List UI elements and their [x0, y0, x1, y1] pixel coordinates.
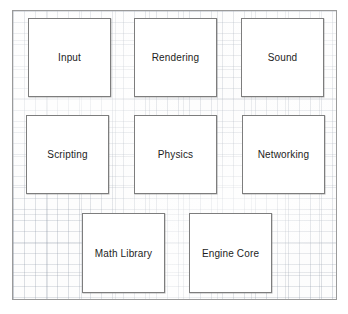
node-scripting[interactable]: Scripting — [26, 115, 109, 194]
node-engine-core[interactable]: Engine Core — [189, 213, 272, 293]
node-networking[interactable]: Networking — [242, 115, 325, 194]
node-label-math-library: Math Library — [95, 248, 152, 259]
node-label-physics: Physics — [158, 149, 194, 160]
node-label-networking: Networking — [258, 149, 310, 160]
node-label-rendering: Rendering — [152, 52, 200, 63]
node-input[interactable]: Input — [28, 18, 111, 97]
node-label-engine-core: Engine Core — [202, 248, 259, 259]
diagram-canvas: Input Rendering Sound Scripting Physics … — [0, 0, 348, 314]
node-label-sound: Sound — [268, 52, 298, 63]
node-sound[interactable]: Sound — [241, 18, 324, 97]
node-label-scripting: Scripting — [47, 149, 87, 160]
node-math-library[interactable]: Math Library — [82, 213, 165, 293]
graph-paper-background: Input Rendering Sound Scripting Physics … — [12, 10, 337, 300]
node-physics[interactable]: Physics — [134, 115, 217, 194]
node-rendering[interactable]: Rendering — [134, 18, 217, 97]
node-label-input: Input — [58, 52, 81, 63]
